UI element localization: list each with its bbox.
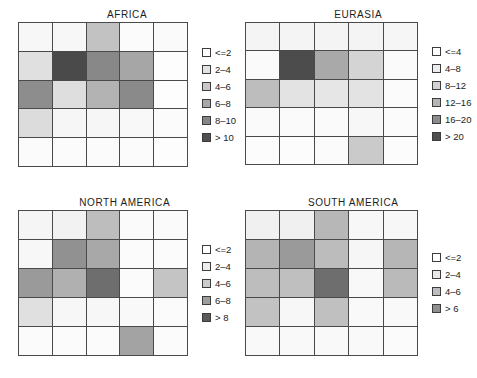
legend-swatch — [432, 98, 441, 107]
heatmap-cell — [349, 23, 382, 50]
legend-entry: 16–20 — [432, 111, 471, 128]
heatmap-cell — [19, 327, 52, 355]
legend-entry: 12–16 — [432, 94, 471, 111]
heatmap-cell — [349, 80, 382, 107]
heatmap-cell — [246, 137, 279, 164]
legend-entry: <=2 — [432, 249, 461, 266]
heatmap-grid-north-america — [18, 210, 188, 356]
heatmap-cell — [315, 80, 348, 107]
heatmap-cell — [349, 211, 382, 239]
heatmap-cell — [19, 81, 52, 109]
legend-label: <=2 — [215, 244, 231, 255]
heatmap-cell — [280, 240, 313, 268]
legend-entry: > 20 — [432, 128, 471, 145]
legend-entry: <=4 — [432, 43, 471, 60]
heatmap-cell — [87, 298, 120, 326]
legend-label: 6–8 — [215, 295, 231, 306]
legend-swatch — [202, 313, 211, 322]
legend-swatch — [432, 132, 441, 141]
legend-swatch — [432, 115, 441, 124]
legend-entry: 4–6 — [432, 283, 461, 300]
heatmap-cell — [154, 138, 187, 166]
legend-label: > 20 — [445, 131, 464, 142]
legend-swatch — [202, 133, 211, 142]
panel-body-north-america: <=22–44–66–8> 8 — [18, 210, 231, 356]
heatmap-cell — [315, 298, 348, 326]
panel-title-north-america: NORTH AMERICA — [18, 196, 231, 210]
heatmap-cell — [53, 109, 86, 137]
heatmap-cell — [87, 109, 120, 137]
heatmap-cell — [315, 327, 348, 355]
heatmap-cell — [384, 137, 417, 164]
legend-label: 4–8 — [445, 63, 461, 74]
legend-swatch — [432, 253, 441, 262]
heatmap-cell — [280, 137, 313, 164]
heatmap-cell — [315, 108, 348, 135]
heatmap-cell — [384, 80, 417, 107]
legend-entry: 6–8 — [202, 292, 231, 309]
panel-body-south-america: <=22–44–6> 6 — [245, 210, 461, 356]
legend-swatch — [202, 65, 211, 74]
legend-swatch — [432, 304, 441, 313]
legend-label: 6–8 — [215, 98, 231, 109]
heatmap-cell — [154, 327, 187, 355]
legend-entry: > 10 — [202, 129, 236, 146]
heatmap-cell — [53, 240, 86, 268]
heatmap-cell — [120, 327, 153, 355]
heatmap-cell — [87, 240, 120, 268]
heatmap-cell — [246, 23, 279, 50]
heatmap-cell — [246, 108, 279, 135]
heatmap-figure: AFRICA <=22–44–66–88–10> 10 EURASIA <=44… — [0, 0, 477, 378]
legend-swatch — [202, 262, 211, 271]
panel-eurasia: EURASIA <=44–88–1212–1616–20> 20 — [245, 8, 471, 165]
legend-entry: 2–4 — [202, 61, 236, 78]
legend-label: > 10 — [215, 132, 234, 143]
heatmap-cell — [246, 211, 279, 239]
heatmap-cell — [280, 23, 313, 50]
heatmap-cell — [154, 211, 187, 239]
heatmap-cell — [349, 269, 382, 297]
panel-title-eurasia: EURASIA — [245, 8, 471, 22]
legend-label: 2–4 — [445, 269, 461, 280]
heatmap-cell — [19, 138, 52, 166]
heatmap-cell — [87, 23, 120, 51]
legend-label: <=2 — [215, 47, 231, 58]
heatmap-cell — [87, 327, 120, 355]
heatmap-cell — [384, 240, 417, 268]
panel-south-america: SOUTH AMERICA <=22–44–6> 6 — [245, 196, 461, 356]
legend-swatch — [432, 47, 441, 56]
heatmap-cell — [19, 240, 52, 268]
heatmap-cell — [154, 23, 187, 51]
legend-swatch — [202, 279, 211, 288]
heatmap-cell — [246, 51, 279, 78]
heatmap-cell — [154, 52, 187, 80]
heatmap-cell — [280, 108, 313, 135]
heatmap-cell — [154, 298, 187, 326]
heatmap-cell — [19, 269, 52, 297]
heatmap-cell — [349, 327, 382, 355]
heatmap-cell — [246, 240, 279, 268]
panel-africa: AFRICA <=22–44–66–88–10> 10 — [18, 8, 236, 167]
heatmap-cell — [315, 23, 348, 50]
heatmap-cell — [315, 137, 348, 164]
heatmap-cell — [349, 137, 382, 164]
panel-title-africa: AFRICA — [18, 8, 236, 22]
heatmap-cell — [87, 81, 120, 109]
panel-title-south-america: SOUTH AMERICA — [245, 196, 461, 210]
heatmap-cell — [280, 51, 313, 78]
legend-entry: <=2 — [202, 241, 231, 258]
legend-label: > 8 — [215, 312, 228, 323]
heatmap-cell — [349, 240, 382, 268]
heatmap-cell — [120, 269, 153, 297]
heatmap-cell — [87, 138, 120, 166]
heatmap-cell — [384, 298, 417, 326]
heatmap-cell — [19, 211, 52, 239]
heatmap-cell — [315, 240, 348, 268]
heatmap-grid-south-america — [245, 210, 418, 356]
heatmap-cell — [280, 211, 313, 239]
heatmap-cell — [120, 298, 153, 326]
heatmap-cell — [120, 81, 153, 109]
heatmap-cell — [53, 327, 86, 355]
legend-swatch — [202, 99, 211, 108]
heatmap-cell — [87, 52, 120, 80]
